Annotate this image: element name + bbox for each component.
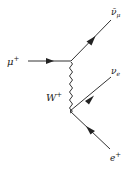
neutrino-electron-line <box>70 77 111 111</box>
positron-line <box>70 111 110 149</box>
label-neutrino-electron: νe <box>111 66 120 77</box>
antineutrino-muon-line <box>71 20 111 61</box>
label-antineutrino-muon: ν̄μ <box>111 7 120 19</box>
label-w-boson: W+ <box>46 91 62 103</box>
label-positron: e+ <box>110 151 121 163</box>
label-muon: μ+ <box>7 55 20 67</box>
arrow-icon <box>46 58 54 64</box>
feynman-diagram: μ+ ν̄μ W+ νe e+ <box>0 0 130 169</box>
w-boson-line <box>70 62 73 113</box>
muon-line <box>28 58 71 64</box>
